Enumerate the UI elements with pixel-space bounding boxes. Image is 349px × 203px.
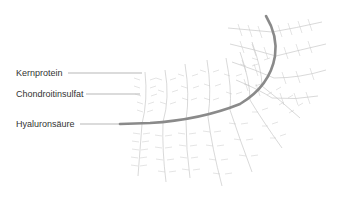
label-kernprotein: Kernprotein xyxy=(16,68,63,78)
proteoglycan-branches xyxy=(131,19,326,186)
proteoglycan-diagram xyxy=(0,0,349,203)
label-chondroitinsulfat: Chondroitinsulfat xyxy=(16,89,84,99)
hyaluronic-acid-backbone xyxy=(120,16,276,124)
label-hyaluronsaeure: Hyaluronsäure xyxy=(16,119,75,129)
